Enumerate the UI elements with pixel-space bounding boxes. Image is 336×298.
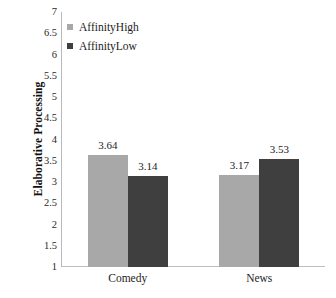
y-axis-tick-label: 2.5 <box>31 198 57 209</box>
y-axis-tick-label: 1 <box>31 262 57 273</box>
y-axis-tick-label: 4.5 <box>31 113 57 124</box>
y-axis-tick-label: 6.5 <box>31 28 57 39</box>
y-axis-tick-label: 2 <box>31 220 57 231</box>
bar-news-affinityhigh <box>219 175 259 267</box>
bar-chart: Elaborative Processing 76.565.554.543.53… <box>0 0 336 298</box>
bar-value-label: 3.53 <box>259 144 299 155</box>
y-axis-tick-label: 5 <box>31 92 57 103</box>
bar-value-label: 3.14 <box>128 161 168 172</box>
y-axis-tick-labels: 76.565.554.543.532.521.51 <box>28 0 57 298</box>
x-axis-category-label: Comedy <box>78 272 178 284</box>
y-axis-tick-label: 4 <box>31 135 57 146</box>
y-axis-tick-label: 7 <box>31 7 57 18</box>
legend-swatch-icon <box>67 24 73 30</box>
chart-legend: AffinityHighAffinityLow <box>67 19 139 57</box>
bar-value-label: 3.64 <box>88 140 128 151</box>
y-axis-tick-label: 3.5 <box>31 156 57 167</box>
y-axis-tick-label: 6 <box>31 50 57 61</box>
y-axis-tick-label: 1.5 <box>31 241 57 252</box>
y-axis-tick-label: 3 <box>31 177 57 188</box>
bar-comedy-affinitylow <box>128 176 168 267</box>
bar-value-label: 3.17 <box>219 160 259 171</box>
legend-swatch-icon <box>67 43 73 49</box>
legend-item[interactable]: AffinityLow <box>67 38 139 53</box>
bar-comedy-affinityhigh <box>88 155 128 267</box>
x-axis-category-label: News <box>209 272 309 284</box>
y-axis-tick-label: 5.5 <box>31 71 57 82</box>
bar-news-affinitylow <box>259 159 299 267</box>
legend-label: AffinityHigh <box>79 21 139 33</box>
legend-item[interactable]: AffinityHigh <box>67 19 139 34</box>
legend-label: AffinityLow <box>79 40 137 52</box>
